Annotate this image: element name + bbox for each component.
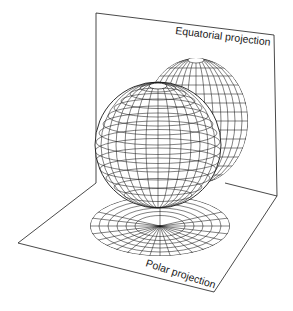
north-pole-opening — [149, 83, 167, 89]
globe — [95, 82, 221, 208]
polar-projection-label: Polar projection — [144, 256, 217, 290]
projection-diagram: Equatorial projection Polar projection — [0, 0, 293, 311]
equatorial-projection-label: Equatorial projection — [175, 24, 272, 48]
